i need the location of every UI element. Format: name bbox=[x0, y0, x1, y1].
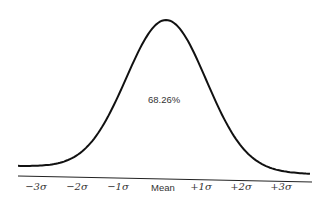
area-percentage-label: 68.26% bbox=[148, 94, 180, 105]
tick-label-mean: Mean bbox=[151, 182, 175, 193]
tick-label-plus-3-sigma: +3σ bbox=[270, 181, 292, 192]
tick-label-plus-2-sigma: +2σ bbox=[230, 181, 252, 192]
tick-label-plus-1-sigma: +1σ bbox=[190, 181, 212, 192]
tick-label-minus-2-sigma: −2σ bbox=[66, 181, 88, 192]
tick-label-minus-1-sigma: −1σ bbox=[107, 181, 129, 192]
tick-label-minus-3-sigma: −3σ bbox=[25, 181, 47, 192]
